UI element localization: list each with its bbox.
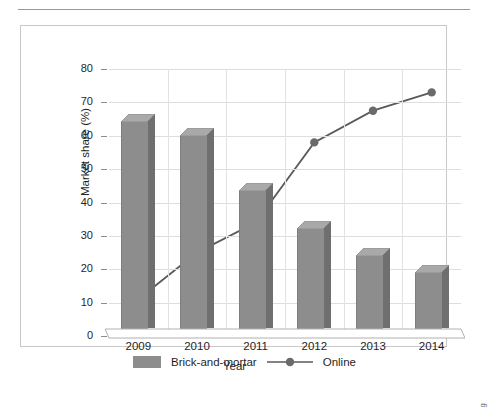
bar-top-face xyxy=(297,221,331,229)
bar-side-face xyxy=(382,248,390,328)
bar-top-face xyxy=(356,248,390,256)
bar-front-face xyxy=(180,136,207,336)
bar-brick-and-mortar xyxy=(121,114,147,336)
bar-front-face xyxy=(239,191,266,336)
y-axis-tick-label: 80 xyxy=(63,63,93,74)
y-axis-tick xyxy=(101,69,107,70)
legend-label-brick-and-mortar: Brick-and-mortar xyxy=(171,356,257,368)
y-axis-tick xyxy=(101,102,107,103)
bar-top-face xyxy=(239,183,273,191)
plot-area: 01020304050607080 xyxy=(109,69,461,336)
bar-brick-and-mortar xyxy=(180,128,206,336)
legend-label-online: Online xyxy=(323,356,356,368)
top-divider-rule xyxy=(18,9,470,10)
bar-front-face xyxy=(121,122,148,336)
x-axis-tick-label: 2010 xyxy=(167,340,227,352)
category-separator xyxy=(226,69,227,336)
bar-side-face xyxy=(206,128,214,328)
legend-swatch-brick-and-mortar xyxy=(133,356,161,368)
bar-top-face xyxy=(180,128,214,136)
bar-brick-and-mortar xyxy=(415,265,441,336)
bar-front-face xyxy=(297,229,324,336)
bar-front-face xyxy=(415,273,442,336)
x-axis-tick-label: 2014 xyxy=(402,340,462,352)
x-axis-tick-label: 2013 xyxy=(343,340,403,352)
online-data-point xyxy=(428,88,436,96)
y-axis-tick xyxy=(101,269,107,270)
category-separator xyxy=(402,69,403,336)
bar-brick-and-mortar xyxy=(239,183,265,336)
y-axis-tick-label: 40 xyxy=(63,197,93,208)
x-axis-tick-label: 2012 xyxy=(284,340,344,352)
category-separator xyxy=(344,69,345,336)
bar-top-face xyxy=(121,114,155,122)
y-axis-tick-label: 0 xyxy=(63,330,93,341)
legend-marker-online xyxy=(267,356,313,368)
y-axis-tick xyxy=(101,236,107,237)
online-data-point xyxy=(369,107,377,115)
category-separator xyxy=(168,69,169,336)
copyright-notice: © 2017 Cengage Learning xyxy=(478,403,487,407)
y-axis-tick-label: 50 xyxy=(63,163,93,174)
y-axis-tick xyxy=(101,169,107,170)
y-axis-tick-label: 60 xyxy=(63,130,93,141)
y-axis-tick xyxy=(101,303,107,304)
y-axis-tick-label: 30 xyxy=(63,230,93,241)
y-axis-tick xyxy=(101,203,107,204)
category-separator xyxy=(285,69,286,336)
bar-side-face xyxy=(441,265,449,328)
bar-side-face xyxy=(323,221,331,328)
y-axis-tick-label: 10 xyxy=(63,297,93,308)
bar-top-face xyxy=(415,265,449,273)
y-axis-tick xyxy=(101,136,107,137)
floor-slab-3d xyxy=(105,328,465,340)
online-data-point xyxy=(310,138,318,146)
bar-front-face xyxy=(356,256,383,336)
bar-side-face xyxy=(147,114,155,328)
bar-side-face xyxy=(265,183,273,328)
y-axis-tick-label: 20 xyxy=(63,263,93,274)
chart-figure-panel: Market share (%) 01020304050607080 Year … xyxy=(20,25,447,347)
bar-brick-and-mortar xyxy=(297,221,323,336)
x-axis-tick-label: 2009 xyxy=(108,340,168,352)
y-axis-tick-label: 70 xyxy=(63,96,93,107)
chart-legend: Brick-and-mortar Online xyxy=(0,356,489,368)
bar-brick-and-mortar xyxy=(356,248,382,336)
x-axis-tick-label: 2011 xyxy=(226,340,286,352)
